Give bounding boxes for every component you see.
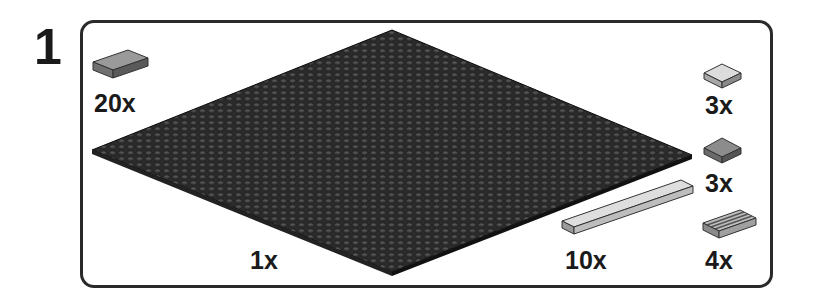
baseplate-icon [92, 30, 692, 276]
tile-2x2-dark-icon [704, 138, 741, 163]
tile-grille-icon [703, 210, 756, 238]
qty-tile-2x2-dark: 3x [705, 171, 733, 196]
qty-tile-2x2-light: 3x [705, 93, 733, 118]
qty-tile-grille: 4x [705, 248, 733, 273]
qty-tile-1x2: 20x [94, 91, 136, 116]
qty-baseplate: 1x [250, 248, 278, 273]
tile-2x2-light-icon [704, 64, 741, 88]
parts-illustration [0, 0, 814, 299]
tile-1x2-icon [93, 50, 148, 78]
qty-tile-1x8: 10x [565, 248, 607, 273]
